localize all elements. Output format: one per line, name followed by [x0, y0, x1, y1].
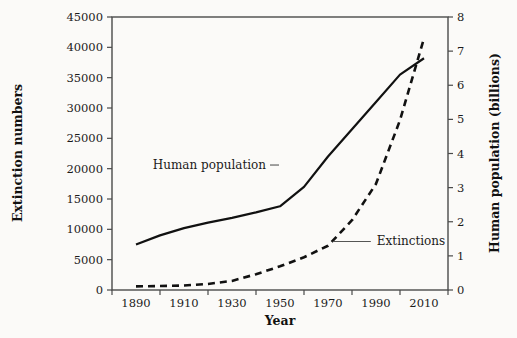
extinctions-vs-population-line-chart: 0500010000150002000025000300003500040000…: [0, 0, 517, 338]
x-axis-tick-label: 2010: [409, 296, 438, 310]
x-axis-tick-label: 1910: [169, 296, 198, 310]
y-axis-right-tick-label: 5: [457, 112, 464, 126]
y-axis-left-tick-label: 35000: [66, 71, 103, 85]
y-axis-right-tick-label: 4: [457, 147, 464, 161]
y-axis-left-tick-label: 10000: [66, 222, 103, 236]
y-axis-right-tick-label: 6: [457, 78, 464, 92]
x-axis-tick-label: 1890: [121, 296, 150, 310]
y-axis-left-tick-label: 20000: [66, 162, 103, 176]
chart-figure: 0500010000150002000025000300003500040000…: [0, 0, 517, 338]
y-axis-right-title: Human population (billions): [487, 53, 502, 253]
y-axis-left-tick-label: 40000: [66, 40, 103, 54]
y-axis-left-title: Extinction numbers: [10, 84, 25, 222]
y-axis-left-tick-label: 30000: [66, 101, 103, 115]
y-axis-right-tick-label: 8: [457, 10, 464, 24]
x-axis-title: Year: [264, 313, 296, 328]
annotation-label-human-population: Human population: [153, 158, 266, 172]
y-axis-right-tick-label: 0: [457, 283, 464, 297]
annotation-label-extinctions: Extinctions: [377, 234, 445, 248]
y-axis-right-tick-label: 3: [457, 181, 464, 195]
y-axis-left-tick-label: 25000: [66, 131, 103, 145]
y-axis-left-tick-label: 5000: [74, 253, 103, 267]
y-axis-left-tick-label: 0: [96, 283, 103, 297]
y-axis-right-tick-label: 2: [457, 215, 464, 229]
y-axis-left-tick-label: 45000: [66, 10, 103, 24]
y-axis-right-tick-label: 7: [457, 44, 464, 58]
x-axis-tick-label: 1950: [265, 296, 294, 310]
x-axis-tick-label: 1970: [313, 296, 342, 310]
x-axis-tick-label: 1930: [217, 296, 246, 310]
x-axis-tick-label: 1990: [361, 296, 390, 310]
y-axis-right-tick-label: 1: [457, 249, 464, 263]
y-axis-left-tick-label: 15000: [66, 192, 103, 206]
